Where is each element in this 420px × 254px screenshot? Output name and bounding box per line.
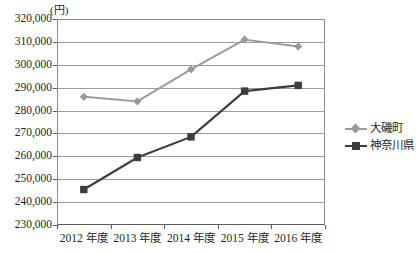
data-point-square: [295, 82, 302, 89]
data-point-diamond: [80, 93, 88, 101]
legend-item-kanagawa: 神奈川県: [345, 137, 419, 154]
data-point-square: [80, 186, 87, 193]
data-point-diamond: [241, 36, 249, 44]
line-chart: (円) 320,000310,000300,000290,000280,0002…: [0, 0, 420, 254]
chart-legend: 大磯町 神奈川県: [345, 120, 419, 154]
data-point-square: [241, 87, 248, 94]
legend-label-oiso: 大磯町: [370, 122, 403, 135]
legend-label-kanagawa: 神奈川県: [370, 139, 414, 152]
legend-item-oiso: 大磯町: [345, 120, 419, 137]
data-point-diamond: [294, 42, 302, 50]
data-point-square: [187, 133, 194, 140]
legend-marker-square-icon: [345, 140, 367, 152]
data-point-square: [134, 154, 141, 161]
legend-marker-diamond-icon: [345, 123, 367, 135]
series-oiso: [80, 36, 303, 106]
data-point-diamond: [187, 65, 195, 73]
data-point-diamond: [133, 97, 141, 105]
